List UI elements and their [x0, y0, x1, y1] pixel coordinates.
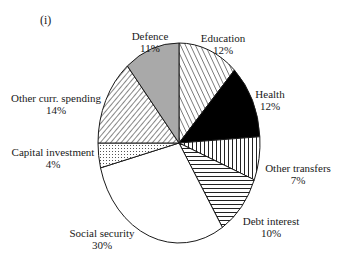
label-debt-interest-pct: 10%	[238, 227, 304, 239]
label-other-transfers: Other transfers 7%	[260, 162, 336, 186]
label-defence-pct: 11%	[125, 42, 175, 54]
panel-label: (i)	[40, 13, 51, 28]
pie-slices	[98, 43, 260, 243]
label-education-pct: 12%	[193, 44, 253, 56]
label-health: Health 12%	[248, 88, 292, 112]
label-social-security-name: Social security	[62, 227, 142, 239]
label-other-transfers-name: Other transfers	[260, 162, 336, 174]
label-debt-interest: Debt interest 10%	[238, 215, 304, 239]
label-other-curr-spending: Other curr. spending 14%	[6, 92, 106, 116]
label-other-curr-spending-pct: 14%	[6, 104, 106, 116]
label-social-security-pct: 30%	[62, 239, 142, 251]
label-defence-name: Defence	[125, 30, 175, 42]
label-health-pct: 12%	[248, 100, 292, 112]
label-education-name: Education	[193, 32, 253, 44]
label-defence: Defence 11%	[125, 30, 175, 54]
label-other-transfers-pct: 7%	[260, 174, 336, 186]
label-capital-investment-name: Capital investment	[8, 146, 98, 158]
label-health-name: Health	[248, 88, 292, 100]
label-capital-investment: Capital investment 4%	[8, 146, 98, 170]
label-social-security: Social security 30%	[62, 227, 142, 251]
label-capital-investment-pct: 4%	[8, 158, 98, 170]
label-education: Education 12%	[193, 32, 253, 56]
label-other-curr-spending-name: Other curr. spending	[6, 92, 106, 104]
label-debt-interest-name: Debt interest	[238, 215, 304, 227]
